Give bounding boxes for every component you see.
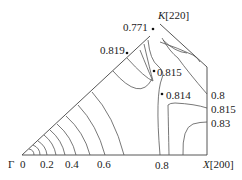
tick-0.4: 0.4 (65, 159, 79, 170)
value-0.771: 0.771 (123, 22, 148, 33)
tick-0: 0 (20, 159, 26, 170)
edge-value-0.83: 0.83 (211, 118, 230, 129)
tick-0.8: 0.8 (155, 160, 169, 171)
point-0819 (126, 52, 129, 55)
edge-value-0.815: 0.815 (211, 104, 236, 115)
gamma-label: Γ (8, 159, 14, 170)
point-0815 (153, 70, 156, 73)
contour-plot (0, 0, 242, 180)
k-point-label: K[220] (158, 10, 189, 21)
point-0771 (152, 28, 155, 31)
tick-0.2: 0.2 (40, 159, 54, 170)
value-0.814: 0.814 (166, 90, 191, 101)
point-0814 (161, 93, 164, 96)
value-0.815: 0.815 (157, 67, 182, 78)
tick-0.6: 0.6 (97, 159, 111, 170)
value-0.819: 0.819 (100, 45, 125, 56)
x-point-label: X[200] (203, 159, 234, 170)
edge-value-0.8: 0.8 (211, 90, 225, 101)
